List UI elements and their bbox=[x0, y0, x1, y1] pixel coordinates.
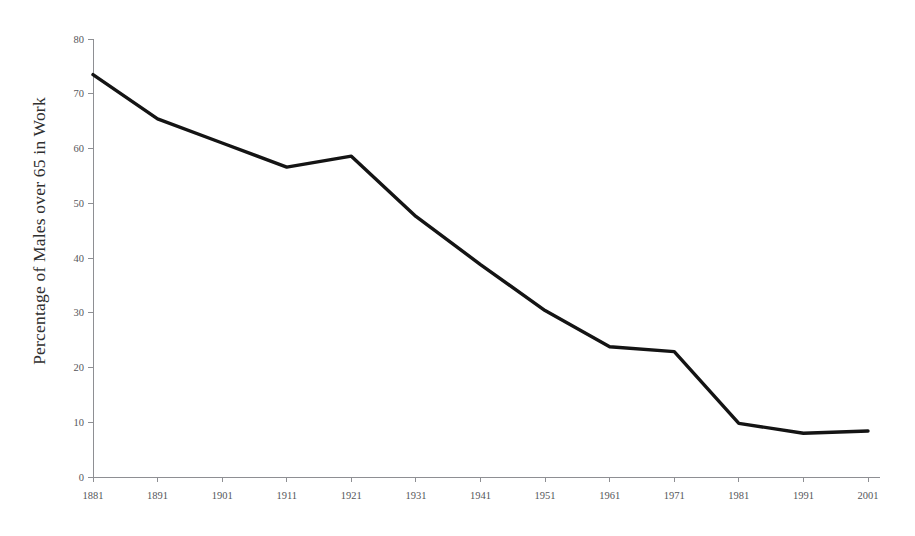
x-axis-tick-label: 1901 bbox=[212, 490, 233, 501]
y-axis-tick-label: 40 bbox=[74, 253, 85, 264]
x-axis-tick-label: 1881 bbox=[83, 490, 104, 501]
y-axis-tick-label: 50 bbox=[74, 198, 85, 209]
x-axis-tick-label: 1921 bbox=[341, 490, 362, 501]
x-axis-tick-label: 1951 bbox=[535, 490, 556, 501]
x-axis-tick-label: 1931 bbox=[405, 490, 426, 501]
x-axis-tick-label: 1971 bbox=[664, 490, 685, 501]
x-axis-tick-label: 1961 bbox=[599, 490, 620, 501]
chart-container: Percentage of Males over 65 in Work 0102… bbox=[0, 0, 915, 536]
y-axis-tick-label: 30 bbox=[74, 307, 85, 318]
y-axis-tick-label: 60 bbox=[74, 143, 85, 154]
y-axis-tick-label: 70 bbox=[74, 88, 85, 99]
y-axis-tick-label: 80 bbox=[74, 34, 85, 45]
x-axis-tick-label: 1941 bbox=[470, 490, 491, 501]
x-axis-tick-label: 1981 bbox=[728, 490, 749, 501]
y-axis-tick-label: 20 bbox=[74, 362, 85, 373]
x-axis-tick-label: 1891 bbox=[147, 490, 168, 501]
x-axis-tick-group: 1881189119011911192119311941195119611971… bbox=[83, 477, 879, 501]
y-axis-tick-label: 10 bbox=[74, 417, 85, 428]
x-axis-tick-label: 1911 bbox=[276, 490, 297, 501]
line-chart-plot: 01020304050607080 1881189119011911192119… bbox=[0, 0, 915, 536]
x-axis-tick-label: 1991 bbox=[793, 490, 814, 501]
y-axis-tick-group: 01020304050607080 bbox=[74, 34, 94, 483]
y-axis-tick-label: 0 bbox=[79, 472, 84, 483]
x-axis-tick-label: 2001 bbox=[858, 490, 879, 501]
data-series-line bbox=[93, 75, 868, 434]
